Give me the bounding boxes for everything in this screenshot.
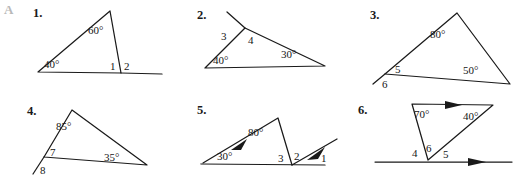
angle-number-4: 4 bbox=[248, 34, 254, 46]
figure-1-diagram: 60° 40° 1 2 bbox=[0, 0, 175, 90]
angle-number-2: 2 bbox=[294, 150, 300, 162]
baseline-extension-1 bbox=[121, 73, 162, 74]
figure-6: 6. 70° 40° 4 6 5 bbox=[350, 90, 520, 184]
angle-number-5: 5 bbox=[395, 63, 401, 75]
figure-4: 4. 85° 35° 7 8 bbox=[0, 90, 175, 184]
arrowhead-top-edge-6 bbox=[445, 101, 462, 109]
figure-1: 1. 60° 40° 1 2 bbox=[0, 0, 175, 90]
angle-number-3: 3 bbox=[278, 152, 284, 164]
angle-label-50: 50° bbox=[463, 64, 478, 76]
angle-number-6: 6 bbox=[382, 78, 388, 90]
angle-label-60: 60° bbox=[88, 24, 103, 36]
angle-label-30: 30° bbox=[281, 48, 296, 60]
angle-number-8: 8 bbox=[40, 164, 46, 176]
figure-6-number: 6. bbox=[358, 103, 367, 118]
angle-number-6: 6 bbox=[426, 142, 432, 154]
angle-number-2: 2 bbox=[124, 60, 130, 72]
figure-5-number: 5. bbox=[197, 103, 206, 118]
angle-label-80: 80° bbox=[248, 126, 263, 138]
figure-3: 3. 80° 50° 5 6 bbox=[350, 0, 520, 90]
baseline-5 bbox=[201, 164, 325, 165]
angle-number-5: 5 bbox=[443, 148, 449, 160]
arrowhead-baseline-6 bbox=[468, 158, 486, 166]
angle-label-30: 30° bbox=[217, 150, 232, 162]
angle-number-4: 4 bbox=[412, 147, 418, 159]
angle-number-7: 7 bbox=[50, 146, 56, 158]
angle-label-40: 40° bbox=[463, 110, 478, 122]
angle-number-1: 1 bbox=[110, 60, 116, 72]
triangle-3-outline bbox=[385, 13, 510, 84]
figure-4-number: 4. bbox=[27, 104, 36, 119]
angle-number-3: 3 bbox=[221, 30, 227, 42]
ray-extension-2 bbox=[227, 12, 245, 28]
angle-label-40: 40° bbox=[44, 58, 59, 70]
angle-label-35: 35° bbox=[104, 151, 119, 163]
figure-2: 2. 3 4 40° 30° bbox=[175, 0, 350, 90]
figure-6-diagram: 70° 40° 4 6 5 bbox=[350, 90, 520, 184]
figure-1-number: 1. bbox=[33, 6, 42, 21]
angle-label-85: 85° bbox=[56, 120, 71, 132]
worksheet-page: A 1. 60° 40° 1 2 2. 3 4 40° 30° 3. bbox=[0, 0, 520, 184]
triangle-4-outline bbox=[44, 110, 147, 165]
angle-number-1: 1 bbox=[321, 152, 327, 164]
figure-5: 5. 80° 30° 3 2 1 bbox=[175, 90, 350, 184]
figure-2-number: 2. bbox=[197, 8, 206, 23]
angle-label-80: 80° bbox=[430, 28, 445, 40]
angle-label-70: 70° bbox=[414, 108, 429, 120]
angle-label-40: 40° bbox=[213, 54, 228, 66]
figure-3-number: 3. bbox=[370, 8, 379, 23]
